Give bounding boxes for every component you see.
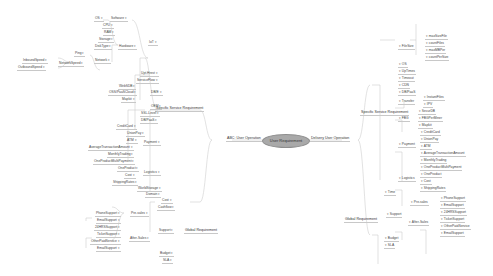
left-dbe[interactable]: DB/E xyxy=(150,90,163,96)
left-oneproductmultipay[interactable]: OneProductMultiPayment xyxy=(93,159,135,165)
right-timeout[interactable]: Timeout xyxy=(398,76,415,82)
left-outbound[interactable]: OutboundSpeed xyxy=(17,65,46,71)
left-ssl[interactable]: SSL-Level xyxy=(140,111,160,117)
right-filesize[interactable]: FileSize xyxy=(398,44,415,50)
right-shippingrates[interactable]: ShippingRates xyxy=(420,186,446,192)
right-maxsizefile[interactable]: maxSizeFile xyxy=(425,34,448,40)
right-aftersales[interactable]: After-Sales xyxy=(408,220,429,226)
right-presales[interactable]: Pre-sales xyxy=(410,200,429,206)
left-support[interactable]: Support xyxy=(158,228,174,234)
left-emailsupport-pre[interactable]: EmailSupport xyxy=(96,218,121,224)
left-phonesupport[interactable]: PhoneSupport xyxy=(95,211,121,217)
left-aftersales[interactable]: After-Sales xyxy=(129,236,150,242)
right-emailsupport-after[interactable]: EmailSupport xyxy=(440,231,465,237)
left-network[interactable]: Network xyxy=(94,58,111,64)
right-ticketsupport[interactable]: TicketSupport xyxy=(440,217,465,223)
left-mapkit[interactable]: Mapkit xyxy=(121,97,136,103)
right-uptimes[interactable]: UpTimes xyxy=(398,69,416,75)
left-ram[interactable]: RAM xyxy=(103,30,115,36)
left-24hrs[interactable]: 24HRSSupport xyxy=(94,225,121,231)
mind-map: User Requirement ABC: User Operation Del… xyxy=(0,0,493,276)
right-mapkit[interactable]: Mapkit xyxy=(418,123,433,129)
right-cdn[interactable]: CDN xyxy=(398,83,410,89)
right-phonesupport[interactable]: PhoneSupport xyxy=(440,196,466,202)
right-otherpaid[interactable]: OtherPaidService xyxy=(440,224,471,230)
left-domain[interactable]: Domain xyxy=(145,192,161,198)
right-global[interactable]: Global Requirement xyxy=(344,217,378,223)
left-monthlytrading[interactable]: MonthlyTrading xyxy=(107,152,134,158)
left-specific[interactable]: Specific Service Requirement xyxy=(155,106,204,112)
left-global[interactable]: Global Requirement xyxy=(184,228,218,234)
right-fbgperminer[interactable]: FBGPerMiner xyxy=(418,116,443,122)
right-countfiles[interactable]: countFiles xyxy=(425,41,445,47)
left-payment[interactable]: Payment xyxy=(143,140,161,146)
left-osspaas[interactable]: OSS/PaaSCloud xyxy=(108,90,137,96)
left-storage[interactable]: Storage xyxy=(98,37,114,43)
left-networkspeed[interactable]: NetworkSpeed xyxy=(58,61,84,67)
right-atm[interactable]: ATM xyxy=(420,144,432,150)
right-countpersize[interactable]: countPerSize xyxy=(425,55,449,61)
right-oneproduct[interactable]: OneProduct xyxy=(420,172,442,178)
left-iot[interactable]: IoT xyxy=(148,40,158,46)
branch-right[interactable]: Delivery User Operation xyxy=(310,136,350,142)
left-dbpaas[interactable]: DB/PaaS xyxy=(140,118,158,124)
branch-left[interactable]: ABC: User Operation xyxy=(226,136,262,142)
right-monthlytrading[interactable]: MonthlyTrading xyxy=(420,158,447,164)
right-dbpaas[interactable]: DB/PaaS xyxy=(398,90,416,96)
right-budget[interactable]: Budget xyxy=(384,236,399,242)
right-avgtransaction[interactable]: AverageTransactionAmount xyxy=(420,151,466,157)
left-sla[interactable]: SLA xyxy=(162,258,173,264)
right-instantfiles[interactable]: InstantFiles xyxy=(423,95,445,101)
left-cost[interactable]: Cost xyxy=(124,173,136,179)
left-shippingrates[interactable]: ShippingRates xyxy=(112,180,138,186)
right-sla[interactable]: SLA xyxy=(384,243,395,249)
right-securdb[interactable]: SecurDB xyxy=(418,109,436,115)
left-gcost[interactable]: Cost xyxy=(161,198,173,204)
right-time[interactable]: Time xyxy=(384,190,396,196)
right-cost[interactable]: Cost xyxy=(420,179,432,185)
left-ping[interactable]: Ping xyxy=(74,51,85,57)
left-presales[interactable]: Pre-sales xyxy=(130,211,149,217)
right-transfer[interactable]: Transfer xyxy=(398,99,415,105)
left-avgtransaction[interactable]: AverageTransactionAmount xyxy=(88,145,134,151)
left-unionpay[interactable]: UnionPay xyxy=(126,131,145,137)
right-support[interactable]: Support xyxy=(386,212,402,218)
left-software[interactable]: Software xyxy=(110,16,128,22)
left-otherpaid[interactable]: OtherPaidService xyxy=(90,239,121,245)
left-emailsupport-after[interactable]: EmailSupport xyxy=(96,246,121,252)
left-serviceflow[interactable]: ServiceFlow xyxy=(136,78,159,84)
left-atm[interactable]: ATM xyxy=(126,138,138,144)
left-uptime[interactable]: Upt.Hrest xyxy=(140,71,159,77)
right-oneproductmultipay[interactable]: OneProductMultiPayment xyxy=(420,165,462,171)
left-os[interactable]: OS xyxy=(94,16,104,22)
left-hardware[interactable]: Hardware xyxy=(118,44,137,50)
right-creditcard[interactable]: CreditCard xyxy=(420,130,441,136)
left-cpu[interactable]: CPU xyxy=(102,23,114,29)
left-cashflow[interactable]: Cashflow xyxy=(157,205,175,211)
right-payment[interactable]: Payment xyxy=(398,142,416,148)
right-fbg[interactable]: FBG xyxy=(398,116,410,122)
left-logistics[interactable]: Logistics xyxy=(143,170,161,176)
right-os[interactable]: OS xyxy=(398,62,408,68)
right-emailsupport-pre[interactable]: EmailSupport xyxy=(440,203,465,209)
left-inbound[interactable]: InboundSpeed xyxy=(22,58,48,64)
right-maxmbper[interactable]: maxMBPer xyxy=(425,48,446,54)
right-unionpay[interactable]: UnionPay xyxy=(420,137,439,143)
left-ticketsupport[interactable]: TicketSupport xyxy=(96,232,121,238)
root-node[interactable]: User Requirement xyxy=(262,134,310,148)
left-disktype[interactable]: DiskType xyxy=(94,44,112,50)
left-budget[interactable]: Budget xyxy=(159,251,174,257)
left-oneproduct[interactable]: OneProduct xyxy=(117,166,139,172)
left-oem[interactable]: OEM xyxy=(150,104,162,110)
left-creditcard[interactable]: CreditCard xyxy=(116,124,137,130)
right-ipv[interactable]: IPV xyxy=(423,102,433,108)
right-logistics[interactable]: Logistics xyxy=(398,176,416,182)
right-24hrs[interactable]: 24HRSSupport xyxy=(440,210,467,216)
